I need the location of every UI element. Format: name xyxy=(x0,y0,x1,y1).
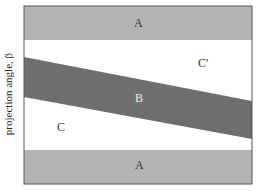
diagram-plot xyxy=(0,0,258,191)
label-c: C xyxy=(57,120,65,135)
label-b: B xyxy=(135,91,143,106)
label-a-bottom: A xyxy=(135,158,144,173)
label-a-top: A xyxy=(134,16,143,31)
label-c-prime: C′ xyxy=(198,56,209,71)
